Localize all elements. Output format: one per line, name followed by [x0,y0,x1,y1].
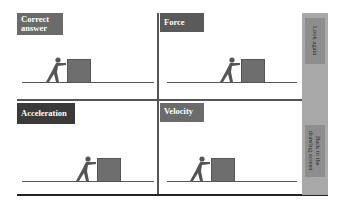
box [97,158,121,182]
person-pushing-icon [70,156,98,182]
box [67,59,91,83]
person-pushing-icon [40,57,68,83]
back-to-drawing-button[interactable]: Back to the drawing screen [305,125,325,177]
box [241,59,265,83]
look-again-button[interactable]: Look again [305,18,325,64]
panel-label: Velocity [160,103,204,122]
person-pushing-icon [214,57,242,83]
bottom-border [17,194,328,196]
panel-label: Force [160,13,204,32]
box [211,158,235,182]
vertical-divider [157,13,159,195]
panel-label: Acceleration [17,103,75,124]
person-pushing-icon [184,156,212,182]
horizontal-divider [17,99,302,101]
sidebar: Look again Back to the drawing screen [302,13,328,195]
panel-label: Correct answer [17,13,63,35]
